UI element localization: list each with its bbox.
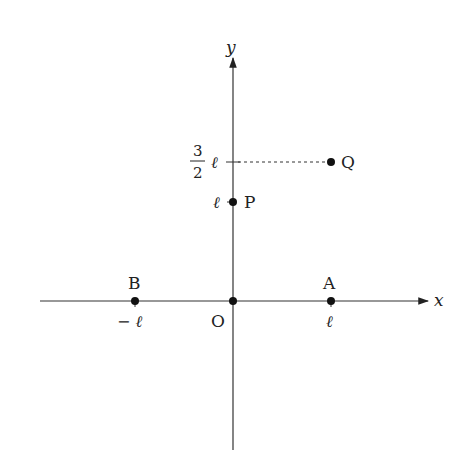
y-axis-label: y — [225, 37, 236, 57]
point-a — [327, 297, 335, 305]
label-b: B — [128, 273, 141, 293]
point-p — [229, 198, 237, 206]
label-o: O — [211, 311, 225, 331]
fraction-denominator: 2 — [193, 164, 203, 182]
point-o — [229, 297, 237, 305]
tick-label-x-pos: ℓ — [326, 312, 333, 331]
point-b — [131, 297, 139, 305]
tick-label-y-q-fraction: 3 2 ℓ — [190, 142, 218, 182]
point-q — [327, 158, 335, 166]
label-a: A — [322, 273, 336, 293]
coordinate-diagram: x y O A B P Q ℓ − ℓ ℓ 3 2 ℓ — [0, 0, 475, 461]
fraction-numerator: 3 — [193, 142, 203, 160]
tick-label-x-neg: − ℓ — [117, 312, 142, 331]
fraction-unit: ℓ — [211, 153, 218, 172]
tick-label-y-p: ℓ — [213, 193, 220, 212]
x-axis-label: x — [434, 290, 444, 310]
label-q: Q — [341, 152, 355, 172]
label-p: P — [244, 192, 255, 212]
